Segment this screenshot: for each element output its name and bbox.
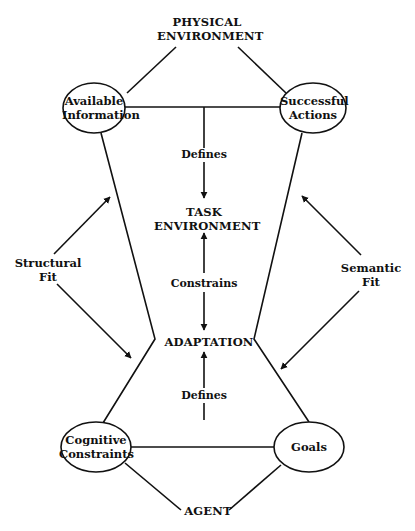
label-available-information: Available Information [62,94,126,122]
text-task: TASK [154,205,254,219]
text-actions: Actions [280,108,346,122]
text-semantic: Semantic [340,261,402,275]
label-goals: Goals [284,440,334,454]
text-information: Information [62,108,126,122]
label-semantic-fit: Semantic Fit [340,261,402,289]
edge-cognitive-agent [125,463,181,510]
edge-successful-adaptation-goals [254,133,309,422]
arrow-structural-up [54,197,110,254]
edge-physical-available [127,47,176,93]
label-successful-actions: Successful Actions [280,94,346,122]
text-cognitive: Cognitive [59,433,133,447]
label-structural-fit: Structural Fit [10,256,86,284]
text-environment: ENVIRONMENT [154,219,254,233]
text-structural-fit: Fit [10,270,86,284]
label-defines-top: Defines [174,148,234,162]
label-defines-bottom: Defines [174,389,234,403]
label-agent: AGENT [178,504,238,518]
text-semantic-fit: Fit [340,275,402,289]
text-structural: Structural [10,256,86,270]
text-constraints: Constraints [59,447,133,461]
text-successful: Successful [280,94,346,108]
label-cognitive-constraints: Cognitive Constraints [59,433,133,461]
arrow-semantic-down [281,291,359,369]
arrow-semantic-up [302,196,361,255]
label-physical-environment: PHYSICAL ENVIRONMENT [157,15,257,43]
label-environment: ENVIRONMENT [157,29,257,43]
edge-available-adaptation-cognitive [101,133,155,423]
edge-physical-successful [238,47,286,93]
arrow-structural-down [57,284,131,358]
label-task-environment: TASK ENVIRONMENT [154,205,254,233]
label-adaptation: ADAPTATION [158,335,260,349]
label-physical: PHYSICAL [157,15,257,29]
text-available: Available [62,94,126,108]
label-constrains: Constrains [169,277,239,291]
